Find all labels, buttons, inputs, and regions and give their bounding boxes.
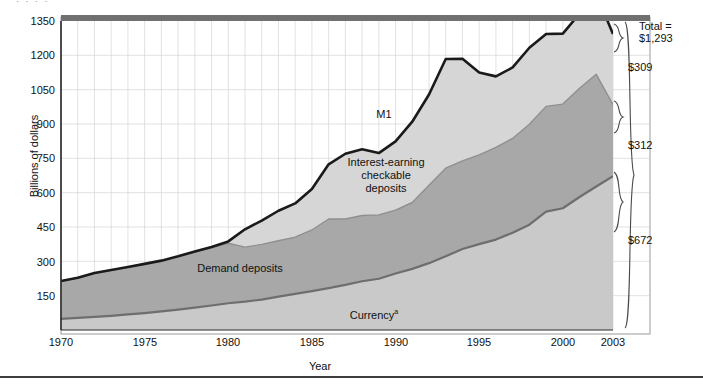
x-tick-2003: 2003 [588, 336, 638, 348]
bracket-label-currency: $672 [628, 234, 652, 246]
y-tick-1200: 1200 [15, 49, 55, 61]
x-tick-1995: 1995 [454, 336, 504, 348]
y-tick-150: 150 [15, 290, 55, 302]
bracket-label-iecd: $309 [628, 61, 652, 73]
x-tick-1985: 1985 [287, 336, 337, 348]
bracket-label-demand: $312 [628, 139, 652, 151]
series-label-m1: M1 [364, 108, 404, 121]
y-tick-1350: 1350 [15, 15, 55, 27]
y-tick-750: 750 [15, 152, 55, 164]
x-tick-1975: 1975 [120, 336, 170, 348]
series-label-currency: Currencya [334, 305, 414, 322]
y-tick-450: 450 [15, 221, 55, 233]
x-tick-2000: 2000 [538, 336, 588, 348]
y-tick-300: 300 [15, 256, 55, 268]
series-label-demand-deposits: Demand deposits [180, 262, 300, 275]
x-tick-1980: 1980 [203, 336, 253, 348]
plot-top-band [61, 15, 650, 21]
currency-footnote-marker: a [394, 308, 398, 315]
series-label-currency-text: Currency [350, 309, 395, 321]
x-tick-1970: 1970 [36, 336, 86, 348]
figure-m1-components: · · · · Billions of dollars [0, 0, 703, 386]
series-label-interest-earning-checkable-deposits: Interest-earning checkable deposits [332, 156, 440, 195]
figure-bottom-rule [0, 376, 703, 378]
y-tick-600: 600 [15, 187, 55, 199]
y-tick-900: 900 [15, 118, 55, 130]
x-tick-1990: 1990 [371, 336, 421, 348]
y-tick-1050: 1050 [15, 84, 55, 96]
x-axis-title: Year [0, 360, 640, 372]
bracket-label-total: Total = $1,293 [639, 20, 673, 44]
